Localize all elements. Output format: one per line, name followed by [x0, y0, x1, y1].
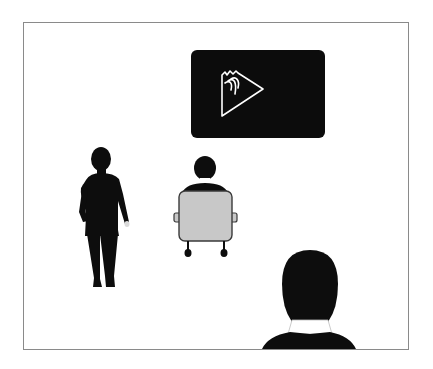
- standing-person: [78, 146, 134, 291]
- seated-person-head: [194, 156, 216, 180]
- presentation-screen: [191, 50, 325, 138]
- foreground-person: [262, 248, 356, 349]
- chair: [174, 191, 237, 257]
- seated-person: [172, 155, 240, 259]
